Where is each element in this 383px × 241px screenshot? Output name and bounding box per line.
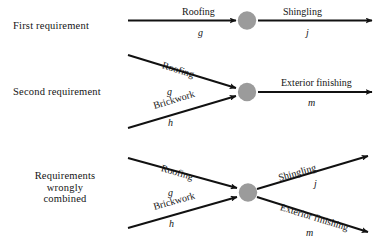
row-label-first-requirement: First requirement bbox=[13, 20, 89, 31]
edge-var-h-row2: h bbox=[168, 117, 173, 128]
node-event-1 bbox=[238, 11, 256, 29]
row-label-line-1: Requirements bbox=[13, 170, 117, 182]
edge-var-m-row3: m bbox=[306, 227, 313, 238]
row-label-second-requirement: Second requirement bbox=[13, 86, 101, 97]
row-1-edges bbox=[128, 11, 372, 29]
node-event-3 bbox=[239, 183, 257, 201]
network-diagram-graphic bbox=[0, 0, 383, 241]
row-label-requirements-wrongly-combined: Requirements wrongly combined bbox=[13, 170, 117, 205]
edge-label-roofing-row1: Roofing bbox=[182, 6, 215, 17]
edge-var-m-row2: m bbox=[308, 97, 315, 108]
edge-var-j-row3: j bbox=[314, 178, 317, 189]
row-label-line-3: combined bbox=[13, 193, 117, 205]
edge-label-exterior-finishing-row2: Exterior finishing bbox=[281, 77, 352, 88]
diagram-canvas: First requirement Second requirement Req… bbox=[0, 0, 383, 241]
node-event-2 bbox=[238, 83, 256, 101]
edge-var-j-row1: j bbox=[306, 27, 309, 38]
edge-label-shingling-row1: Shingling bbox=[283, 6, 322, 17]
row-label-line-2: wrongly bbox=[13, 182, 117, 194]
edge-var-g-row1: g bbox=[198, 27, 203, 38]
edge-var-h-row3: h bbox=[169, 218, 174, 229]
